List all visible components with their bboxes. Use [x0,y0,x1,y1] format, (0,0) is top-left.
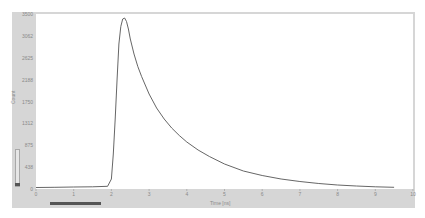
chart-svg [0,0,425,218]
data-series-line [36,18,394,188]
axis-ticks [36,189,413,191]
